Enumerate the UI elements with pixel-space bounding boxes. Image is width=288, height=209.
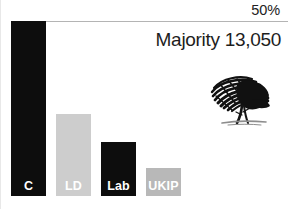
bar-ld: LD: [56, 114, 91, 196]
bar-label-lab: Lab: [101, 179, 136, 193]
bar-label-ukip: UKIP: [146, 179, 181, 193]
election-bar-chart: 50% Majority 13,050 C LD Lab UKIP: [0, 0, 288, 209]
bar-label-ld: LD: [56, 179, 91, 193]
bar-ukip: UKIP: [146, 168, 181, 196]
bar-label-c: C: [11, 179, 46, 193]
bar-lab: Lab: [101, 142, 136, 196]
conservative-tree-logo: [206, 70, 278, 128]
bar-c: C: [11, 21, 46, 196]
